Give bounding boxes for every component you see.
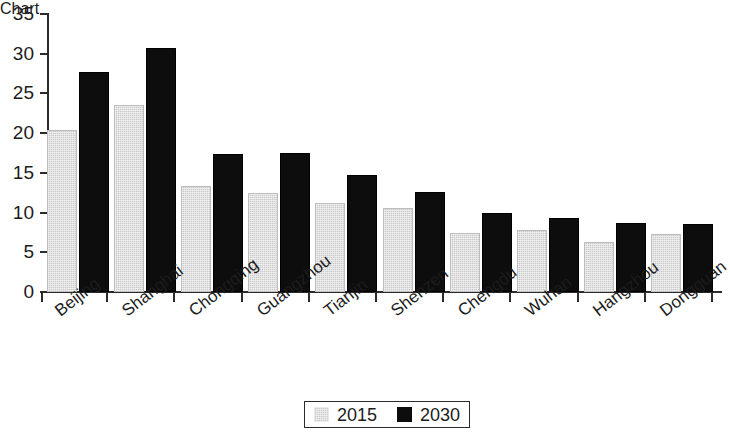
y-axis-tick-label: 30: [0, 44, 34, 63]
x-axis-tick: [106, 293, 108, 302]
y-axis-tick-label: 15: [0, 163, 34, 182]
y-axis-tick-label: 10: [0, 203, 34, 222]
bar-dongguan-2015: [651, 234, 681, 292]
x-axis-tick: [375, 293, 377, 302]
legend-item-2030: 2030: [397, 406, 460, 424]
x-axis-tick: [308, 293, 310, 302]
bar-beijing-2030: [79, 72, 109, 292]
x-axis-tick: [644, 293, 646, 302]
bar-tianjin-2030: [347, 175, 377, 292]
bar-tianjin-2015: [315, 203, 345, 292]
bar-group: [384, 14, 451, 292]
bar-group: [653, 14, 720, 292]
legend-label-2030: 2030: [420, 406, 460, 424]
legend-swatch-2030: [397, 407, 412, 422]
x-axis-tick: [41, 293, 43, 302]
bar-beijing-2015: [47, 130, 77, 292]
x-axis-tick: [711, 293, 713, 302]
y-axis-tick: [40, 13, 48, 15]
y-axis-tick: [40, 53, 48, 55]
y-axis-tick: [40, 92, 48, 94]
bar-shanghai-2030: [146, 48, 176, 292]
plot-area: [48, 14, 720, 292]
x-axis-tick: [241, 293, 243, 302]
bar-group: [182, 14, 249, 292]
bar-group: [48, 14, 115, 292]
bar-shenzen-2015: [383, 208, 413, 292]
y-axis-tick-label: 25: [0, 83, 34, 102]
x-axis-tick: [442, 293, 444, 302]
bar-chengdu-2015: [450, 233, 480, 292]
x-axis-tick: [509, 293, 511, 302]
bar-group: [586, 14, 653, 292]
x-axis-tick: [577, 293, 579, 302]
bar-group: [115, 14, 182, 292]
chart-legend: 20152030: [304, 401, 470, 428]
legend-item-2015: 2015: [314, 406, 377, 424]
y-axis-tick-label: 5: [0, 242, 34, 261]
bar-group: [451, 14, 518, 292]
bar-wuhan-2015: [517, 230, 547, 292]
legend-swatch-2015: [314, 407, 329, 422]
bar-group: [518, 14, 585, 292]
bar-hangzhou-2015: [584, 242, 614, 292]
bar-group: [250, 14, 317, 292]
bar-group: [317, 14, 384, 292]
bar-guangzhou-2015: [248, 193, 278, 292]
bar-shanghai-2015: [114, 105, 144, 292]
legend-label-2015: 2015: [337, 406, 377, 424]
y-axis-tick-label: 20: [0, 123, 34, 142]
y-axis-tick-label: 0: [0, 282, 34, 301]
y-axis-tick-label: 35: [0, 4, 34, 23]
x-axis-tick: [173, 293, 175, 302]
